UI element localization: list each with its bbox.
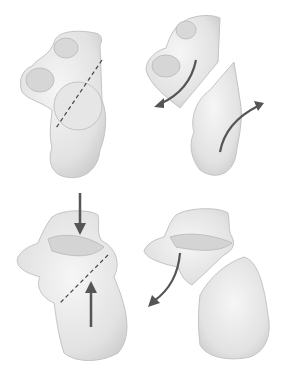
bone-head	[54, 82, 102, 130]
panel-top-right	[140, 0, 283, 185]
arrowhead-icon	[254, 101, 264, 111]
bone-illustration	[140, 0, 283, 185]
bone-facet	[176, 21, 196, 39]
panel-bottom-right	[140, 185, 283, 370]
bone-shape	[17, 211, 127, 361]
panel-bottom-left	[0, 185, 140, 370]
bone-illustration	[140, 185, 283, 370]
bone-facet	[54, 38, 78, 58]
bone-facet	[26, 68, 54, 92]
lower-fragment	[199, 257, 270, 359]
panel-top-left	[0, 0, 140, 185]
bone-facet	[152, 55, 180, 77]
arrowhead-icon	[154, 98, 164, 108]
bone-illustration	[0, 0, 140, 185]
bone-illustration	[0, 185, 140, 370]
